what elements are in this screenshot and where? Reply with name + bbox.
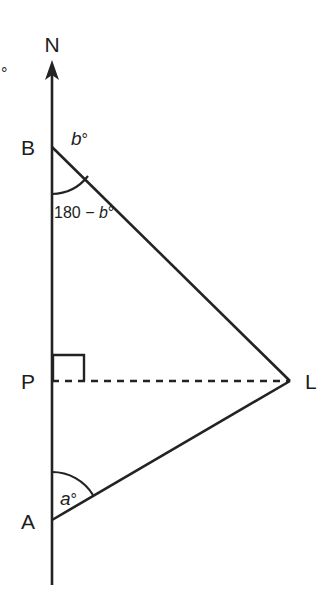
angle-label-b-exterior-var: b bbox=[71, 128, 82, 149]
angle-label-b-interior-degree: ° bbox=[108, 204, 114, 221]
angle-label-b-exterior-degree: ° bbox=[82, 131, 88, 148]
angle-label-a: a° bbox=[60, 488, 77, 509]
edge-degree-fragment: ° bbox=[1, 65, 7, 82]
angle-label-a-var: a bbox=[60, 488, 71, 509]
angle-label-b-exterior: b° bbox=[71, 128, 88, 149]
segment-bl bbox=[52, 147, 290, 381]
label-point-a: A bbox=[21, 510, 35, 533]
geometry-diagram: B P A L N b° 180 − b° a° ° bbox=[0, 0, 331, 601]
figure-canvas: B P A L N b° 180 − b° a° ° bbox=[0, 0, 331, 601]
angle-label-b-interior-var: b bbox=[99, 204, 108, 221]
angle-label-b-interior: 180 − b° bbox=[54, 204, 114, 221]
label-point-p: P bbox=[21, 370, 35, 393]
segment-al bbox=[52, 381, 290, 520]
label-north: N bbox=[44, 33, 59, 56]
label-point-b: B bbox=[21, 136, 35, 159]
label-point-l: L bbox=[305, 370, 317, 393]
angle-label-b-interior-prefix: 180 − bbox=[54, 204, 99, 221]
right-angle-marker bbox=[53, 355, 84, 381]
angle-label-a-degree: ° bbox=[71, 491, 77, 508]
